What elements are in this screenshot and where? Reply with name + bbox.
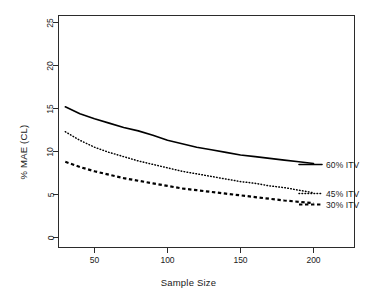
y-tick-text-10: 10 [44,147,54,156]
y-tick-label-25: 25 [36,16,54,30]
series-label-60-itv: 60% ITV [326,160,359,170]
series-label-30-itv: 30% ITV [326,200,359,210]
series-60-itv [65,107,313,164]
x-tick-label-150: 150 [221,255,261,267]
series-label-text-45-itv: 45% ITV [326,189,359,199]
y-tick-label-10: 10 [36,145,54,159]
y-axis-title-text: % MAE (CL) [18,125,29,180]
y-tick-label-15: 15 [36,102,54,116]
series-label-text-30-itv: 30% ITV [326,200,359,210]
series-label-text-60-itv: 60% ITV [326,160,359,170]
y-tick-text-20: 20 [44,61,54,70]
x-tick-text-200: 200 [306,255,320,266]
chart-canvas: 0 5 10 15 20 25 50 100 150 200 Sample Si… [0,0,377,304]
y-tick-text-5: 5 [47,193,57,198]
x-axis-ticks [95,248,314,253]
y-tick-text-0: 0 [47,236,57,241]
y-tick-text-25: 25 [44,18,54,27]
x-tick-text-150: 150 [233,255,247,266]
series-30-itv [65,162,313,203]
x-axis-title-text: Sample Size [161,277,217,288]
series-label-45-itv: 45% ITV [326,189,359,199]
y-tick-label-0: 0 [36,231,54,245]
x-tick-text-100: 100 [160,255,174,266]
x-tick-label-100: 100 [148,255,188,267]
x-tick-text-50: 50 [90,255,99,266]
y-tick-text-15: 15 [44,104,54,113]
y-axis-ticks [53,23,58,238]
series-45-itv [65,132,313,193]
x-tick-label-50: 50 [75,255,115,267]
y-tick-label-20: 20 [36,59,54,73]
y-tick-label-5: 5 [36,188,54,202]
x-axis-title: Sample Size [0,277,377,288]
x-tick-label-200: 200 [294,255,334,267]
